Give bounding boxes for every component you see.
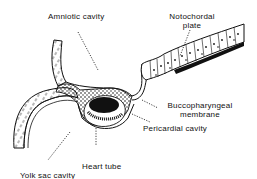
label-yolk-sac-cavity: Yolk sac cavity <box>20 171 75 179</box>
label-heart-tube: Heart tube <box>82 162 121 171</box>
heart-tube-shape <box>89 97 119 113</box>
label-pericardial-cavity: Pericardial cavity <box>143 124 207 133</box>
amnion-wall <box>52 40 66 86</box>
embryo-diagram: Amniotic cavity Notochordal plate Buccop… <box>0 0 257 179</box>
label-notochordal-plate: Notochordal plate <box>162 12 222 30</box>
notochordal-plate-shape <box>141 24 244 80</box>
label-buccopharyngeal-line1: Buccopharyngeal <box>162 101 238 110</box>
yolk-sac-wall <box>14 88 78 148</box>
label-buccopharyngeal-line2: membrane <box>162 110 238 119</box>
label-buccopharyngeal-membrane: Buccopharyngeal membrane <box>162 101 238 119</box>
label-notochordal-plate-line1: Notochordal <box>162 12 222 21</box>
label-amniotic-cavity: Amniotic cavity <box>48 12 104 21</box>
label-notochordal-plate-line2: plate <box>162 21 222 30</box>
